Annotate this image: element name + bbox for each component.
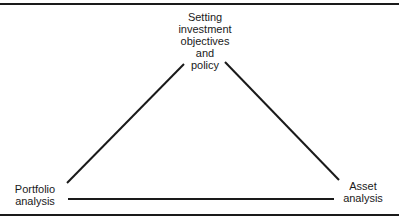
node-text-line: objectives xyxy=(170,35,240,47)
node-text-line: Portfolio xyxy=(8,183,62,195)
node-text-line: and xyxy=(170,47,240,59)
node-text-line: Setting xyxy=(170,11,240,23)
node-portfolio-analysis: Portfolio analysis xyxy=(8,183,62,207)
node-text-line: investment xyxy=(170,23,240,35)
node-text-line: analysis xyxy=(336,192,390,204)
node-text-line: Asset xyxy=(336,180,390,192)
node-text-line: policy xyxy=(170,59,240,71)
node-setting-objectives: Setting investment objectives and policy xyxy=(170,11,240,71)
node-asset-analysis: Asset analysis xyxy=(336,180,390,204)
edge-objectives-portfolio xyxy=(67,64,184,183)
node-text-line: analysis xyxy=(8,195,62,207)
edge-objectives-asset xyxy=(225,62,339,180)
